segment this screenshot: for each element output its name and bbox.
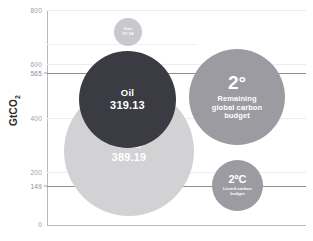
gridline-800 — [47, 10, 306, 11]
y-tick-mark-149 — [44, 186, 47, 187]
bubble-coal-value: 389.19 — [112, 151, 147, 164]
bubble-listed-sub-line-2: budget — [230, 192, 245, 197]
y-tick-mark-565 — [44, 73, 47, 74]
bubble-2deg-sub-line-3: budget — [224, 112, 250, 121]
bubble-gas-value: 37.34 — [122, 32, 133, 37]
bubble-remaining-carbon-budget[interactable]: 2° Remaining global carbon budget — [189, 49, 285, 145]
y-tick-label-0: 0 — [38, 221, 42, 228]
y-axis-title-subscript: 2 — [14, 95, 21, 99]
bubble-listed-carbon-budget[interactable]: 2ºC Listed carbon budget — [212, 160, 263, 211]
bubble-chart: GtCO2 800 600 565 400 200 149 0 Coal 389… — [0, 0, 313, 241]
bubble-listed-headline: 2ºC — [228, 174, 246, 185]
bubble-gas[interactable]: Gas 37.34 — [114, 18, 142, 46]
y-axis-title-main: GtCO — [8, 99, 19, 126]
x-axis-line — [47, 225, 306, 226]
bubble-2deg-headline: 2° — [228, 73, 246, 92]
y-tick-label-800: 800 — [31, 7, 42, 14]
y-tick-label-149: 149 — [31, 183, 42, 190]
bubble-oil-value: 319.13 — [110, 99, 145, 112]
bubble-oil[interactable]: Oil 319.13 — [79, 51, 176, 148]
y-axis-title: GtCO2 — [8, 81, 21, 141]
y-tick-label-200: 200 — [31, 169, 42, 176]
y-tick-label-600: 600 — [31, 61, 42, 68]
plot-area: 800 600 565 400 200 149 0 Coal 389.19 2°… — [47, 10, 306, 226]
bubble-oil-label: Oil — [121, 87, 134, 98]
y-tick-label-565: 565 — [31, 70, 42, 77]
y-tick-label-400: 400 — [31, 115, 42, 122]
